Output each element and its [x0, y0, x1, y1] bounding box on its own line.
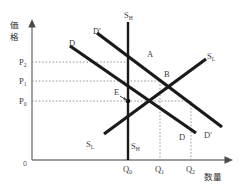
x-tick-labels-group: Q0 Q1 Q2: [123, 164, 195, 175]
x-tick-label-q1: Q1: [155, 164, 164, 175]
x-tick-label-q0: Q0: [123, 164, 132, 175]
label-supply-sl-left: SL: [86, 139, 95, 150]
point-label-e: E: [114, 87, 119, 97]
point-label-a: A: [147, 49, 154, 59]
point-label-b: B: [164, 69, 170, 79]
label-supply-sl-right: SL: [207, 51, 216, 62]
label-supply-sh-top: SH: [124, 10, 133, 21]
chart-canvas: P2 P1 P0 Q0 Q1 Q2 0 D D': [0, 0, 250, 189]
x-axis-arrowhead: [225, 156, 234, 163]
marker-point-e: [126, 99, 131, 104]
label-supply-sh-bottom: SH: [131, 141, 140, 152]
y-tick-labels-group: P2 P1 P0: [19, 57, 27, 107]
label-demand-dprime-top: D': [93, 26, 101, 36]
supply-demand-chart: P2 P1 P0 Q0 Q1 Q2 0 D D': [0, 0, 250, 189]
y-tick-label-p2: P2: [19, 57, 27, 68]
y-axis-title-line2: 格: [10, 32, 19, 42]
x-axis-title: 数量: [204, 172, 222, 182]
label-demand-d-bottom: D: [179, 132, 185, 142]
y-axis-arrowhead: [28, 19, 35, 28]
y-axis-title-line1: 価: [10, 20, 19, 30]
x-tick-label-q2: Q2: [186, 164, 195, 175]
label-demand-d-top: D: [69, 38, 75, 48]
origin-label: 0: [23, 160, 27, 167]
y-tick-label-p1: P1: [19, 76, 27, 87]
label-demand-dprime-bottom: D': [204, 130, 212, 140]
y-tick-label-p0: P0: [19, 96, 27, 107]
demand-curve-d-prime: [97, 33, 222, 127]
curves-group: [70, 22, 222, 160]
